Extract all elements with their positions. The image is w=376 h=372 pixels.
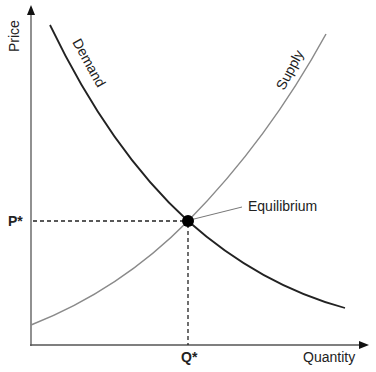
equilibrium-leader-line (190, 207, 242, 220)
y-axis-arrow-icon (27, 5, 35, 15)
quantity-equilibrium-label: Q* (181, 349, 198, 365)
x-axis-arrow-icon (359, 341, 369, 349)
supply-curve-label: Supply (273, 47, 307, 92)
supply-demand-diagram: Price Quantity Demand Supply Equilibrium… (0, 0, 376, 372)
equilibrium-point (182, 215, 194, 227)
price-equilibrium-label: P* (8, 213, 23, 229)
x-axis-label: Quantity (303, 349, 355, 365)
y-axis-label: Price (6, 20, 22, 52)
equilibrium-label: Equilibrium (248, 198, 317, 214)
demand-curve-label: Demand (69, 36, 109, 90)
